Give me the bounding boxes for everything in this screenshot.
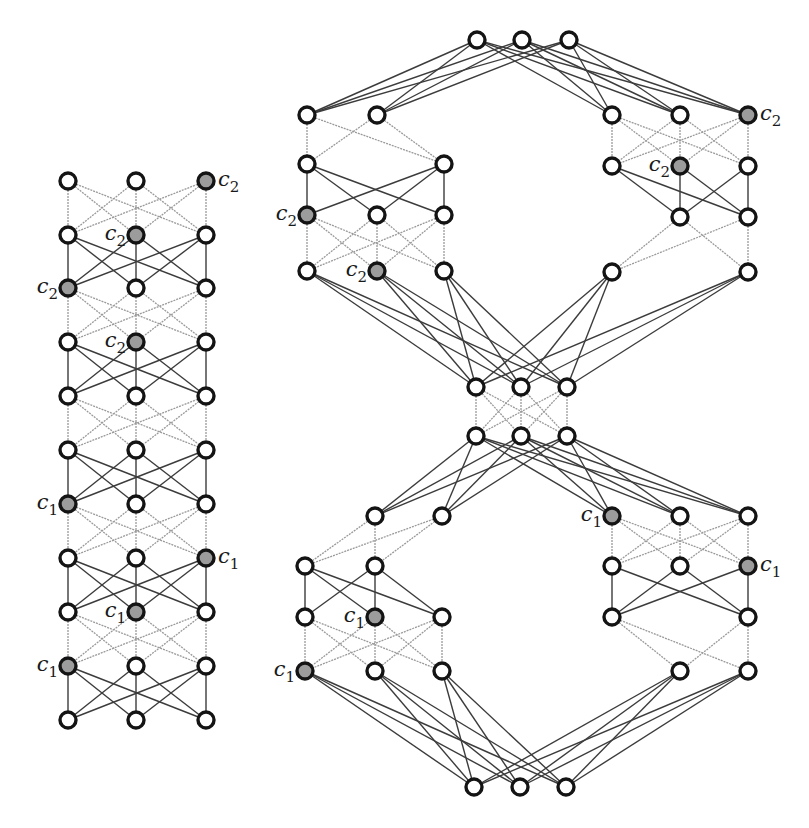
graph-node [604,158,620,174]
graph-node [60,227,76,243]
marked-node [198,550,214,566]
graph-node [60,334,76,350]
graph-node [198,388,214,404]
graph-node [367,558,383,574]
graph-edge [307,40,522,115]
graph-node [297,558,313,574]
graph-edge [680,566,748,617]
marked-node [128,227,144,243]
graph-edge [377,271,567,387]
graph-node [299,156,315,172]
node-label: c2 [276,201,297,230]
graph-edge [521,272,612,387]
left-graph-nodes [60,173,214,728]
graph-node [60,712,76,728]
graph-node [559,428,575,444]
graph-node [558,779,574,795]
graph-node [198,227,214,243]
graph-node [672,663,688,679]
node-label: c2 [760,101,781,130]
graph-node [740,663,756,679]
graph-node [434,609,450,625]
graph-node [198,712,214,728]
graph-node [198,658,214,674]
graph-node [198,496,214,512]
graph-node [740,158,756,174]
graph-edge [612,217,680,272]
graph-edge [612,617,680,671]
marked-node [60,280,76,296]
graph-node [128,658,144,674]
node-label: c1 [581,502,602,531]
marked-node [740,107,756,123]
graph-edge [476,272,612,387]
graph-edge [307,115,377,164]
graph-edge [375,436,521,516]
graph-edge [521,436,612,516]
graph-edge [377,40,569,115]
graph-edge [522,40,748,115]
graph-edge [375,671,566,787]
node-label: c2 [346,257,367,286]
graph-node [369,207,385,223]
graph-edge [476,436,748,516]
left-layered-graph: c2c2c2c2c1c1c1c1 [37,167,240,728]
graph-edge [305,671,520,787]
graph-node [299,263,315,279]
graph-edge [375,516,442,566]
graph-node [740,508,756,524]
graph-node [128,712,144,728]
diagram-canvas: c2c2c2c2c1c1c1c1 c2c2c2c2c1c1c1c1 [0,0,809,828]
graph-node [604,609,620,625]
graph-edge [442,436,521,516]
graph-edge [567,272,612,387]
graph-edge [377,164,444,215]
graph-node [60,604,76,620]
graph-edge [612,566,680,617]
graph-edge [476,272,748,387]
graph-node [436,207,452,223]
graph-edge [477,40,748,115]
graph-node [60,550,76,566]
graph-node [466,779,482,795]
marked-node [604,508,620,524]
marked-node [60,496,76,512]
graph-node [297,609,313,625]
marked-node [672,158,688,174]
graph-edge [476,436,680,516]
graph-node [740,209,756,225]
graph-node [367,663,383,679]
marked-node [128,334,144,350]
graph-node [468,379,484,395]
graph-node [434,508,450,524]
graph-node [60,173,76,189]
graph-edge [377,115,444,164]
node-label: c2 [649,152,670,181]
graph-node [60,442,76,458]
node-label: c1 [760,552,781,581]
marked-node [198,173,214,189]
graph-edge [444,271,521,387]
graph-node [128,388,144,404]
graph-node [434,663,450,679]
graph-node [512,779,528,795]
graph-node [128,550,144,566]
graph-node [198,280,214,296]
graph-node [672,209,688,225]
graph-node [299,107,315,123]
graph-node [369,107,385,123]
graph-node [559,379,575,395]
marked-node [60,658,76,674]
node-label: c1 [218,544,239,573]
graph-node [198,604,214,620]
marked-node [299,207,315,223]
graph-edge [522,40,612,115]
graph-edge [442,671,520,787]
marked-node [740,558,756,574]
graph-edge [569,40,748,115]
graph-node [128,496,144,512]
graph-node [198,334,214,350]
graph-node [604,264,620,280]
node-label: c1 [274,657,295,686]
graph-edge [307,164,377,215]
